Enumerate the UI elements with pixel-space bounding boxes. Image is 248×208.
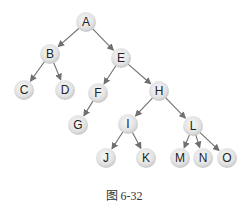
tree-node-F: F — [88, 83, 108, 103]
edge-L-O — [200, 132, 219, 150]
node-label: H — [155, 84, 164, 98]
node-label: D — [61, 83, 70, 97]
node-label: E — [117, 51, 125, 65]
tree-node-G: G — [68, 115, 88, 135]
tree-node-C: C — [14, 80, 34, 100]
node-label: F — [94, 86, 101, 100]
tree-diagram: ABECDFHGILJKMNO — [0, 0, 248, 208]
edge-H-L — [165, 97, 185, 118]
edge-E-H — [128, 64, 151, 84]
nodes-layer: ABECDFHGILJKMNO — [14, 12, 237, 168]
edge-H-I — [136, 98, 153, 116]
edge-A-B — [58, 28, 79, 47]
tree-node-L: L — [183, 116, 203, 136]
edge-I-J — [112, 132, 123, 149]
node-label: G — [73, 118, 82, 132]
tree-node-B: B — [40, 44, 60, 64]
figure-caption: 图 6-32 — [0, 186, 248, 204]
node-label: N — [199, 151, 208, 165]
node-label: C — [20, 83, 29, 97]
tree-node-N: N — [193, 148, 213, 168]
node-label: B — [46, 47, 54, 61]
edge-B-C — [30, 61, 44, 81]
node-label: I — [126, 117, 129, 131]
tree-node-D: D — [55, 80, 75, 100]
tree-node-E: E — [111, 48, 131, 68]
node-label: L — [190, 119, 197, 133]
tree-node-H: H — [149, 81, 169, 101]
node-label: A — [82, 15, 90, 29]
node-label: J — [103, 151, 109, 165]
edge-I-K — [132, 132, 141, 148]
edge-L-N — [196, 135, 200, 148]
edge-L-M — [184, 134, 189, 147]
tree-node-I: I — [118, 114, 138, 134]
node-label: K — [142, 151, 150, 165]
edge-B-D — [53, 62, 60, 80]
edge-F-G — [84, 101, 93, 116]
tree-node-M: M — [170, 148, 190, 168]
node-label: O — [222, 151, 231, 165]
tree-node-A: A — [76, 12, 96, 32]
tree-node-J: J — [96, 148, 116, 168]
edge-A-E — [92, 28, 113, 50]
tree-node-K: K — [136, 148, 156, 168]
edge-E-F — [104, 66, 116, 84]
tree-node-O: O — [217, 148, 237, 168]
node-label: M — [175, 151, 185, 165]
